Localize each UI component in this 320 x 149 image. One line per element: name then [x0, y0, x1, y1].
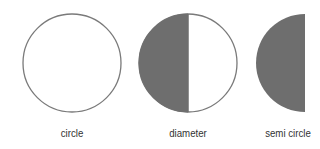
diameter-figure: [139, 14, 237, 112]
semicircle-shape: [256, 14, 305, 112]
semicircle-label: semi circle: [265, 127, 311, 139]
circle-outline: [23, 14, 121, 112]
circle-label: circle: [61, 127, 84, 139]
semicircle-figure: [256, 14, 305, 112]
circle-figure: [23, 14, 121, 112]
diameter-label: diameter: [169, 127, 207, 139]
diameter-filled-half: [139, 14, 188, 112]
